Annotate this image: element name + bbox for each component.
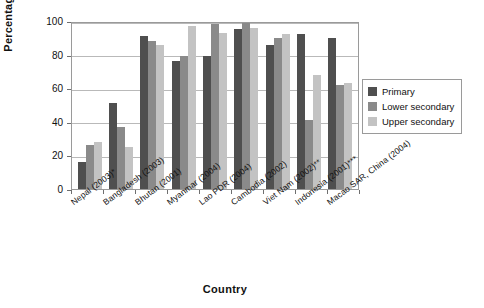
bar-group: [203, 23, 227, 189]
bar-group: [172, 23, 196, 189]
bar: [180, 56, 188, 189]
bar: [328, 38, 336, 189]
bar: [219, 33, 227, 189]
bar: [297, 34, 305, 189]
legend-swatch-icon: [368, 102, 377, 111]
legend-swatch-icon: [368, 117, 377, 126]
y-tick-label: 100: [37, 17, 63, 27]
bar: [305, 120, 313, 189]
x-tick-mark: [71, 190, 72, 194]
bar: [336, 85, 344, 189]
bar-group: [78, 23, 102, 189]
plot-area: [72, 23, 358, 189]
y-tick-mark: [67, 22, 71, 23]
bar: [242, 23, 250, 189]
x-tick-mark: [295, 190, 296, 194]
bar: [109, 103, 117, 189]
bar: [211, 24, 219, 189]
x-tick-mark: [199, 190, 200, 194]
bar: [94, 142, 102, 189]
bar: [140, 36, 148, 189]
bar: [117, 127, 125, 189]
y-tick-label: 40: [37, 118, 63, 128]
bar-group: [266, 23, 290, 189]
bar: [188, 26, 196, 189]
legend-item[interactable]: Primary: [368, 84, 454, 99]
y-tick-mark: [67, 123, 71, 124]
bar: [203, 56, 211, 189]
x-tick-mark: [327, 190, 328, 194]
plot-frame: [71, 22, 359, 190]
y-tick-label: 20: [37, 151, 63, 161]
chart-legend: PrimaryLower secondaryUpper secondary: [362, 79, 462, 134]
y-tick-mark: [67, 56, 71, 57]
bar-group: [109, 23, 133, 189]
x-tick-mark: [103, 190, 104, 194]
bar: [313, 75, 321, 189]
bar: [250, 28, 258, 189]
legend-label: Upper secondary: [382, 116, 454, 127]
y-tick-mark: [67, 156, 71, 157]
legend-swatch-icon: [368, 87, 377, 96]
bar-group: [297, 23, 321, 189]
y-tick-label: 60: [37, 84, 63, 94]
x-tick-mark: [263, 190, 264, 194]
legend-label: Primary: [382, 86, 415, 97]
x-tick-mark: [135, 190, 136, 194]
x-axis-title: Country: [150, 283, 300, 295]
bar: [266, 45, 274, 189]
bar: [274, 38, 282, 189]
legend-label: Lower secondary: [382, 101, 454, 112]
y-tick-label: 80: [37, 51, 63, 61]
bar-group: [234, 23, 258, 189]
bar-chart: Percentage 020406080100 Nepal (2003)*Ban…: [0, 0, 484, 308]
bar: [78, 162, 86, 189]
bar: [86, 145, 94, 189]
legend-item[interactable]: Upper secondary: [368, 114, 454, 129]
bar: [148, 41, 156, 189]
bar: [156, 45, 164, 189]
x-tick-mark: [231, 190, 232, 194]
y-tick-label: 0: [37, 185, 63, 195]
bar: [172, 61, 180, 189]
bar-group: [140, 23, 164, 189]
y-axis-title: Percentage: [2, 0, 20, 76]
bar: [125, 147, 133, 189]
bar: [234, 29, 242, 189]
legend-item[interactable]: Lower secondary: [368, 99, 454, 114]
bar: [344, 83, 352, 189]
bar: [282, 34, 290, 189]
x-tick-mark: [359, 190, 360, 194]
bar-group: [328, 23, 352, 189]
y-tick-mark: [67, 89, 71, 90]
x-tick-mark: [167, 190, 168, 194]
